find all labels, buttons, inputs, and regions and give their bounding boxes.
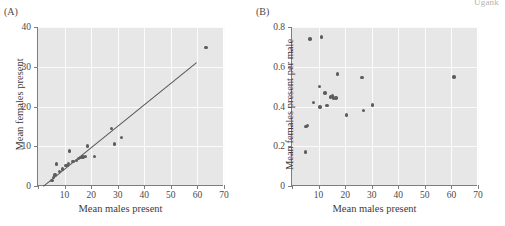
panel-a-data-point [113, 142, 116, 145]
panel-b-data-point [362, 109, 365, 112]
panel-a-x-tick [65, 185, 66, 189]
panel-a-data-point [55, 162, 58, 165]
panel-a-y-tick-label: 0 [26, 181, 31, 191]
panel-b-data-point [320, 35, 323, 38]
panel-a-x-tick [118, 185, 119, 189]
panel-b-data-point [306, 124, 309, 127]
panel-a-data-point [53, 173, 56, 176]
figure-container: Ugank (A) 10203040506070010203040 Mean m… [0, 0, 505, 226]
panel-a-x-tick [224, 185, 225, 189]
panel-a-y-tick [34, 107, 38, 108]
panel-b-gridline-horizontal [292, 27, 477, 28]
panel-a-x-tick [91, 185, 92, 189]
panel-a-data-point [61, 167, 64, 170]
panel-b-x-tick [398, 185, 399, 189]
panel-a-y-tick [34, 146, 38, 147]
panel-b-data-point [312, 101, 315, 104]
panel-b-x-axis-title: Mean males present [272, 203, 477, 214]
panel-a-gridline-horizontal [38, 67, 223, 68]
panel-a-gridline-vertical [224, 27, 225, 185]
panel-b-data-point [452, 75, 455, 78]
panel-a-data-point [50, 179, 53, 182]
panel-b-data-point [334, 96, 337, 99]
panel-b-y-axis-title: Mean females present per male [284, 20, 295, 190]
panel-b-label: (B) [256, 6, 269, 17]
panel-a-y-tick [34, 67, 38, 68]
panel-b-x-tick [319, 185, 320, 189]
panel-a-y-axis-title: Mean females present [14, 30, 25, 180]
panel-a-y-tick [34, 186, 38, 187]
panel-a-x-tick-label: 50 [166, 190, 176, 200]
panel-a-label: (A) [4, 6, 18, 17]
panel-b-data-point [318, 105, 321, 108]
panel-a-x-tick-label: 30 [113, 190, 123, 200]
panel-b-data-point [345, 113, 348, 116]
panel-a-data-point [84, 155, 87, 158]
panel-a-gridline-horizontal [38, 27, 223, 28]
panel-b-x-tick [345, 185, 346, 189]
panel-a-data-point [68, 149, 71, 152]
panel-b-data-point [336, 72, 339, 75]
panel-a-x-tick [171, 185, 172, 189]
panel-b-x-tick-label: 10 [314, 190, 324, 200]
panel-a-x-tick-label: 40 [140, 190, 150, 200]
panel-a-x-tick [144, 185, 145, 189]
panel-a: (A) 10203040506070010203040 Mean males p… [0, 0, 252, 226]
panel-b-plot-area: 1020304050607000.20.40.60.8 [291, 27, 477, 186]
panel-b-gridline-vertical [478, 27, 479, 185]
panel-b-x-tick [372, 185, 373, 189]
panel-a-x-tick-label: 10 [60, 190, 70, 200]
panel-b-x-tick [478, 185, 479, 189]
panel-a-x-tick-label: 60 [193, 190, 203, 200]
panel-a-data-point [93, 155, 96, 158]
panel-b-x-tick [451, 185, 452, 189]
panel-a-x-axis-title: Mean males present [18, 203, 223, 214]
panel-b-x-tick-label: 20 [340, 190, 350, 200]
panel-a-x-tick [38, 185, 39, 189]
panel-a-gridline-horizontal [38, 146, 223, 147]
panel-b: (B) 1020304050607000.20.40.60.8 Mean mal… [252, 0, 504, 226]
panel-b-x-tick [425, 185, 426, 189]
panel-b-data-point [308, 37, 311, 40]
panel-b-data-point [318, 85, 321, 88]
panel-b-x-tick-label: 70 [473, 190, 483, 200]
panel-a-plot-area: 10203040506070010203040 [37, 27, 223, 186]
panel-a-data-point [110, 127, 113, 130]
panel-b-x-tick-label: 40 [394, 190, 404, 200]
panel-a-gridline-horizontal [38, 107, 223, 108]
panel-a-x-tick [197, 185, 198, 189]
panel-a-regression-line [43, 62, 197, 187]
panel-a-data-point [204, 46, 207, 49]
panel-b-x-tick-label: 50 [420, 190, 430, 200]
panel-a-data-point [86, 144, 89, 147]
panel-b-x-tick-label: 30 [367, 190, 377, 200]
panel-b-gridline-horizontal [292, 67, 477, 68]
panel-b-gridline-horizontal [292, 146, 477, 147]
panel-a-y-tick [34, 27, 38, 28]
panel-a-x-tick-label: 20 [86, 190, 96, 200]
panel-b-x-tick-label: 60 [447, 190, 457, 200]
panel-a-data-point [120, 136, 123, 139]
panel-b-data-point [323, 91, 326, 94]
panel-b-data-point [360, 76, 363, 79]
panel-a-x-tick-label: 70 [219, 190, 229, 200]
panel-b-data-point [304, 150, 307, 153]
